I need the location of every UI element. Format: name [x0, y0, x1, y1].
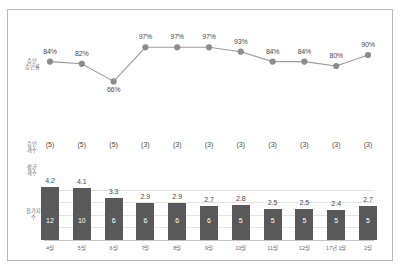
- x-axis-tick: 2월: [364, 244, 372, 252]
- bar-value-label: 2.5: [300, 199, 310, 206]
- approved-count-axis-label: 승인 개수: [21, 141, 43, 153]
- line-data-point: [174, 44, 180, 50]
- approved-count-value: (5): [78, 141, 87, 148]
- bar: [41, 187, 59, 240]
- participant-count-label: 5: [239, 217, 243, 224]
- approved-count-value: (3): [364, 141, 373, 148]
- approved-count-value: (3): [173, 141, 182, 148]
- line-data-label: 84%: [43, 48, 56, 55]
- line-data-label: 82%: [75, 50, 88, 57]
- line-data-point: [301, 59, 307, 65]
- bar-value-label: 2.9: [172, 193, 182, 200]
- participant-count-label: 5: [334, 217, 338, 224]
- participant-count-label: 5: [302, 217, 306, 224]
- x-axis-tick: 17년 1월: [326, 244, 347, 252]
- bar: [73, 188, 91, 240]
- x-axis-tick: 7월: [141, 244, 149, 252]
- bar-value-label: 2.7: [204, 196, 214, 203]
- bar-value-label: 2.5: [268, 199, 278, 206]
- line-data-point: [365, 52, 371, 58]
- x-axis-tick: 5월: [78, 244, 86, 252]
- bar-value-label: 2.9: [141, 193, 151, 200]
- bar: [327, 210, 345, 240]
- approved-count-value: (5): [46, 141, 55, 148]
- line-data-label: 66%: [107, 86, 120, 93]
- approved-count-value: (3): [300, 141, 309, 148]
- line-data-label: 93%: [234, 38, 247, 45]
- line-data-label: 84%: [266, 48, 279, 55]
- participant-count-label: 6: [207, 217, 211, 224]
- line-data-point: [238, 49, 244, 55]
- bar-value-label: 4.2: [45, 177, 55, 184]
- bar: [295, 209, 313, 241]
- x-axis-tick: 6월: [110, 244, 118, 252]
- participant-count-label: 5: [366, 217, 370, 224]
- line-chart-panel: 승인 승인률 84%82%66%97%97%97%93%84%84%80%90%: [8, 10, 392, 128]
- participant-count-label: 10: [78, 217, 86, 224]
- line-data-label: 84%: [298, 48, 311, 55]
- line-data-point: [142, 44, 148, 50]
- bar-value-label: 4.1: [77, 178, 87, 185]
- participant-count-label: 6: [143, 217, 147, 224]
- line-data-label: 97%: [170, 33, 183, 40]
- x-axis-tick: 8월: [173, 244, 181, 252]
- line-data-label: 80%: [329, 52, 342, 59]
- x-axis-tick: 9월: [205, 244, 213, 252]
- x-axis-tick: 12월: [299, 244, 310, 252]
- line-data-label: 97%: [202, 33, 215, 40]
- participant-count-label: 6: [175, 217, 179, 224]
- line-chart-svg: [8, 10, 392, 128]
- x-axis-tick: 4월: [46, 244, 54, 252]
- average-count-axis-label: 평균 개수: [21, 164, 43, 176]
- line-data-label: 97%: [139, 33, 152, 40]
- approved-count-value: (3): [237, 141, 246, 148]
- bar-chart-panel: 평균 개수 참가자 수 4.2124.1103.362.962.962.762.…: [8, 162, 392, 260]
- participant-count-label: 6: [112, 217, 116, 224]
- approved-count-value: (3): [141, 141, 150, 148]
- bar-value-label: 2.4: [331, 200, 341, 207]
- line-data-point: [111, 78, 117, 84]
- line-data-point: [79, 61, 85, 67]
- bar-chart-baseline: [44, 240, 374, 241]
- bar-value-label: 2.7: [363, 196, 373, 203]
- bar-value-label: 3.3: [109, 188, 119, 195]
- line-data-point: [270, 59, 276, 65]
- line-data-label: 90%: [361, 41, 374, 48]
- approved-count-value: (5): [109, 141, 118, 148]
- bar: [264, 209, 282, 241]
- line-series-path: [50, 47, 368, 81]
- x-axis-tick: 11월: [267, 244, 278, 252]
- approved-count-value: (3): [332, 141, 341, 148]
- participant-count-label: 5: [271, 217, 275, 224]
- x-axis-tick: 10월: [235, 244, 246, 252]
- line-data-point: [333, 63, 339, 69]
- bar-value-label: 2.8: [236, 195, 246, 202]
- chart-container: 승인 승인률 84%82%66%97%97%97%93%84%84%80%90%…: [7, 9, 393, 261]
- participant-count-label: 12: [46, 217, 54, 224]
- gridline: [44, 190, 374, 191]
- approved-count-value: (3): [268, 141, 277, 148]
- approved-count-row: 승인 개수 (5)(5)(5)(3)(3)(3)(3)(3)(3)(3)(3): [8, 138, 392, 158]
- line-data-point: [47, 59, 53, 65]
- line-data-point: [206, 44, 212, 50]
- approved-count-value: (3): [205, 141, 214, 148]
